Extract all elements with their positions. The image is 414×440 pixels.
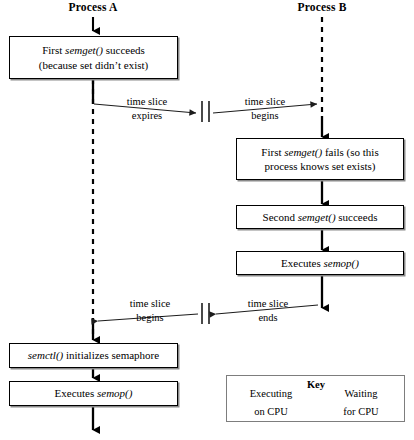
process-a-step-1-line-1: First semget() succeeds (39, 43, 148, 57)
transition-b-begins-line-2: begins (225, 110, 305, 121)
process-a-step-box-1: First semget() succeeds (because set did… (9, 36, 178, 79)
semop-call-label: semop() (324, 257, 359, 269)
column-header-process-b: Process B (272, 1, 372, 13)
transition-a-resumes-line-1: time slice (110, 298, 190, 309)
process-a-step-3-line-1: Executes semop() (55, 386, 133, 400)
process-b-step-2-line-1: Second semget() succeeds (263, 210, 378, 224)
semop-call-label: semop() (97, 387, 132, 399)
process-b-step-box-3: Executes semop() (236, 251, 404, 275)
process-b-step-1-line-1: First semget() fails (so this (261, 145, 378, 159)
transition-b-ends-line-1: time slice (228, 298, 308, 309)
process-b-step-box-2: Second semget() succeeds (236, 205, 404, 229)
process-b-step-1-line-2: process knows set exists) (261, 159, 378, 173)
process-a-step-1-line-2: (because set didn’t exist) (39, 58, 148, 72)
process-a-step-box-3: Executes semop() (9, 381, 178, 406)
process-b-step-box-1: First semget() fails (so this process kn… (236, 138, 404, 180)
semget-call-label: semget() (65, 44, 103, 56)
key-executing-line-2: on CPU (232, 406, 310, 417)
column-header-process-a: Process A (43, 1, 143, 13)
process-a-step-2-line-1: semctl() initializes semaphore (28, 348, 159, 362)
context-switch-bars-1 (202, 101, 209, 122)
semaphore-timeline-diagram: Process A Process B First semget() succe… (0, 0, 414, 440)
key-waiting-line-1: Waiting (322, 388, 400, 399)
semget-call-label: semget() (284, 146, 322, 158)
transition-a-resumes-line-2: begins (110, 312, 190, 323)
transition-a-expires-line-2: expires (107, 110, 187, 121)
transition-b-ends-line-2: ends (228, 312, 308, 323)
context-switch-bars-2 (202, 303, 209, 324)
key-waiting-line-2: for CPU (322, 406, 400, 417)
semctl-call-label: semctl() (28, 349, 63, 361)
transition-a-expires-line-1: time slice (107, 96, 187, 107)
semget-call-label: semget() (298, 211, 336, 223)
process-b-step-3-line-1: Executes semop() (281, 256, 359, 270)
process-a-step-box-2: semctl() initializes semaphore (9, 343, 178, 368)
transition-b-begins-line-1: time slice (225, 96, 305, 107)
key-executing-line-1: Executing (232, 388, 310, 399)
